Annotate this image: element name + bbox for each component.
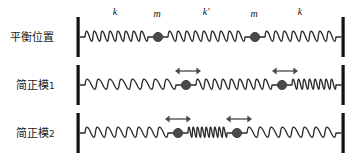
row-equilibrium: 平衡位置 k k' k m m — [10, 6, 345, 57]
displacement-arrow-right-mode1 — [272, 68, 298, 75]
mass-label-m-left: m — [153, 8, 160, 19]
spring-right-mode2 — [242, 127, 341, 137]
displacement-arrow-left-mode2 — [165, 116, 191, 123]
row-normal-mode-2: 简正模2 — [16, 113, 345, 153]
row-normal-mode-1: 简正模1 — [16, 65, 345, 105]
row-label-mode2-index: 2 — [49, 129, 55, 139]
wall-left-mode1 — [77, 65, 80, 105]
mass-right-mode2 — [232, 128, 241, 137]
wall-right-mode1 — [342, 65, 345, 105]
mass-left-mode1 — [181, 80, 190, 89]
row-label-equilibrium: 平衡位置 — [10, 30, 54, 44]
row-label-mode1: 简正模1 — [16, 78, 55, 92]
coupled-oscillator-diagram: 平衡位置 k k' k m m 简正模1 简正模2 — [0, 0, 361, 160]
spring-middle-mode2 — [183, 127, 232, 137]
displacement-arrow-right-mode2 — [226, 116, 252, 123]
row-label-mode2-main: 简正模 — [16, 126, 49, 140]
wall-right-equilibrium — [342, 17, 345, 57]
wall-left-equilibrium — [77, 17, 80, 57]
spring-constant-label-k-prime: k' — [203, 6, 210, 17]
row-label-mode1-index: 1 — [49, 81, 55, 91]
mass-right-equilibrium — [250, 32, 259, 41]
mass-label-m-right: m — [250, 8, 257, 19]
spring-constant-label-k-right: k — [298, 6, 303, 17]
wall-right-mode2 — [342, 113, 345, 153]
mass-left-mode2 — [173, 128, 182, 137]
spring-left-mode1 — [80, 79, 181, 89]
spring-middle-mode1 — [191, 79, 277, 89]
spring-constant-label-k-left: k — [113, 6, 118, 17]
spring-middle-equilibrium — [163, 31, 250, 41]
row-label-mode1-main: 简正模 — [16, 78, 49, 92]
spring-left-equilibrium — [80, 31, 153, 41]
spring-left-mode2 — [80, 127, 173, 137]
spring-right-equilibrium — [260, 31, 341, 41]
spring-right-mode1 — [287, 79, 341, 89]
mass-left-equilibrium — [153, 32, 162, 41]
row-label-mode2: 简正模2 — [16, 126, 55, 140]
displacement-arrow-left-mode1 — [175, 68, 201, 75]
mass-right-mode1 — [277, 80, 286, 89]
wall-left-mode2 — [77, 113, 80, 153]
